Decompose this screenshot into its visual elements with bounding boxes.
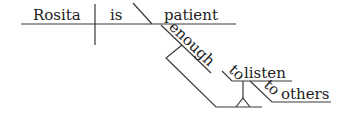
stand-triangle	[236, 98, 250, 107]
word-subject: Rosita	[33, 6, 81, 24]
word-verb: is	[110, 6, 123, 24]
word-predicate-adjective: patient	[164, 6, 218, 24]
sentence-diagram: Rosita is patient enough to listen to ot…	[0, 0, 347, 115]
diagram-lines: Rosita is patient enough to listen to ot…	[0, 0, 347, 115]
word-infinitive-verb: listen	[244, 64, 286, 82]
word-modifier: enough	[165, 18, 219, 70]
predicate-slash	[133, 3, 152, 24]
word-prep-object: others	[281, 85, 329, 103]
